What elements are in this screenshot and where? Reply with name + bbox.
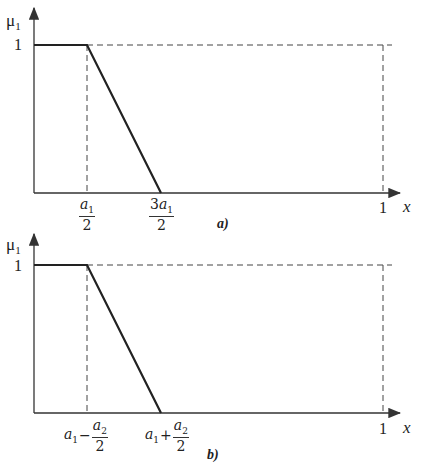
caption-b: b) bbox=[207, 448, 219, 462]
y-tick-one-a: 1 bbox=[14, 37, 22, 53]
x-axis-label-a: x bbox=[403, 198, 411, 215]
y-axis-label-a: μ1 bbox=[6, 12, 21, 32]
panel-a bbox=[34, 8, 400, 193]
y-tick-one-b: 1 bbox=[14, 258, 22, 274]
x-tick-a1-minus-a2-half: a1 − a2 2 bbox=[64, 418, 108, 453]
membership-diagrams bbox=[0, 0, 424, 468]
membership-curve-b bbox=[34, 265, 161, 413]
x-axis-label-b: x bbox=[403, 419, 411, 436]
membership-curve-a bbox=[34, 45, 161, 193]
panel-b bbox=[34, 234, 400, 413]
caption-a: a) bbox=[217, 217, 229, 231]
x-tick-one-a: 1 bbox=[379, 200, 387, 216]
x-tick-3a1-half: 3a1 2 bbox=[149, 197, 174, 232]
x-tick-a1-half: a1 2 bbox=[79, 197, 95, 232]
x-tick-one-b: 1 bbox=[379, 421, 387, 437]
x-tick-a1-plus-a2-half: a1 + a2 2 bbox=[145, 418, 189, 453]
y-axis-label-b: μ1 bbox=[6, 236, 21, 256]
